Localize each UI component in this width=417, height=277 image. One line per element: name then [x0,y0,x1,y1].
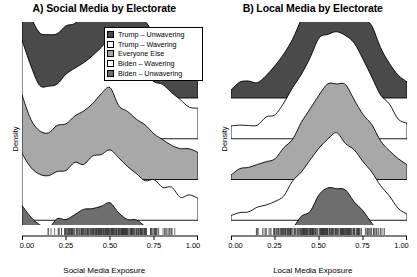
x-tick-label: 0.00 [228,241,243,250]
x-tick-label: 0.50 [103,241,118,250]
panel-a-rug-marks [48,228,175,235]
panel-b-title: B) Local Media by Electorate [209,2,417,14]
legend-label: Biden – Wavering [118,60,174,67]
legend-item[interactable]: Biden – Wavering [107,59,199,69]
legend: Trump – Unwavering Trump – Wavering Ever… [104,27,203,81]
x-tick-label: 1.00 [394,241,409,250]
legend-label: Biden – Unwavering [118,70,182,77]
legend-swatch-trump-unwavering [107,31,114,38]
legend-swatch-biden-unwavering [107,70,114,77]
panel-b-rug-marks [256,228,384,235]
panel-b-axis: 0.000.250.500.751.00 [231,228,407,254]
x-tick-label: 0.75 [147,241,162,250]
x-tick-label: 0.25 [59,241,74,250]
legend-label: Trump – Unwavering [118,31,184,38]
figure-root: A) Social Media by Electorate Density 0.… [0,0,417,277]
legend-label: Trump – Wavering [118,41,177,48]
legend-label: Everyone Else [118,50,164,57]
panel-a-tick-labels: 0.000.250.500.751.00 [22,241,198,253]
legend-item[interactable]: Biden – Unwavering [107,68,199,78]
panel-a-axis-line [22,236,198,240]
panel-b-plot-area [231,22,407,225]
legend-item[interactable]: Trump – Unwavering [107,30,199,40]
panel-b-tick-labels: 0.000.250.500.751.00 [231,241,407,253]
panel-b-ylabel: Density [220,126,229,151]
panel-a-ylabel: Density [11,126,20,151]
legend-item[interactable]: Trump – Wavering [107,40,199,50]
x-tick-label: 0.75 [355,241,370,250]
panel-b-xlabel: Local Media Exposure [209,266,417,275]
legend-swatch-trump-wavering [107,41,114,48]
legend-swatch-everyone-else [107,50,114,57]
x-tick-label: 1.00 [186,241,201,250]
panel-a-title: A) Social Media by Electorate [0,2,209,14]
legend-swatch-biden-wavering [107,60,114,67]
panel-a-xlabel: Social Media Exposure [0,266,209,275]
x-tick-label: 0.00 [20,241,35,250]
legend-item[interactable]: Everyone Else [107,49,199,59]
panel-a: A) Social Media by Electorate Density 0.… [0,0,209,277]
panel-b-density-layers [231,22,407,225]
panel-b: B) Local Media by Electorate Density 0.0… [209,0,417,277]
panel-a-axis: 0.000.250.500.751.00 [22,228,198,254]
panel-b-density-svg [231,22,407,225]
panel-b-axis-line [231,236,407,240]
x-tick-label: 0.25 [267,241,282,250]
x-tick-label: 0.50 [311,241,326,250]
